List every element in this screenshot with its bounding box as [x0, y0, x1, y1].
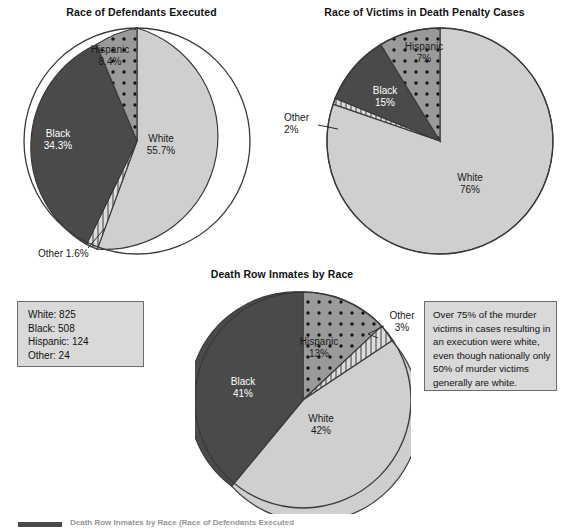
infographic-page: Race of Defendants Executed: [0, 0, 566, 532]
note-line-1: Over 75% of the murder: [433, 308, 548, 322]
counts-databox: White: 825 Black: 508 Hispanic: 124 Othe…: [17, 301, 144, 367]
slice-label-hispanic-deathrow: Hispanic 13%: [288, 336, 350, 360]
slice-label-black-victims: Black 15%: [355, 85, 415, 109]
slice-label-white-deathrow: White 42%: [292, 413, 350, 437]
slice-label-hispanic-defendants: Hispanic 8.4%: [79, 44, 141, 68]
slice-label-white-defendants: White 55.7%: [131, 133, 191, 157]
chart-title-deathrow: Death Row Inmates by Race: [152, 268, 412, 280]
footer-legend-strip: Death Row Inmates by Race (Race of Defen…: [0, 518, 566, 532]
chart-title-victims: Race of Victims in Death Penalty Cases: [283, 6, 566, 18]
footer-swatch-icon: [18, 522, 62, 527]
slice-label-white-victims: White 76%: [440, 172, 500, 196]
note-line-4: even though nationally only: [433, 349, 548, 363]
note-line-3: an execution were white,: [433, 335, 548, 349]
slice-label-hispanic-victims: Hispanic 7%: [393, 41, 455, 65]
count-row-white: White: 825: [28, 308, 134, 322]
slice-label-other-defendants: Other 1.6%: [38, 248, 128, 260]
slice-label-black-deathrow: Black 41%: [215, 376, 271, 400]
count-row-hispanic: Hispanic: 124: [28, 335, 134, 349]
count-row-other: Other: 24: [28, 349, 134, 363]
slice-label-black-defendants: Black 34.3%: [28, 128, 88, 152]
note-line-5: 50% of murder victims: [433, 362, 548, 376]
chart-title-defendants: Race of Defendants Executed: [0, 6, 283, 18]
note-callout-box: Over 75% of the murder victims in cases …: [424, 301, 557, 391]
callout-line-other-deathrow: [366, 320, 392, 340]
callout-line-other-victims: [318, 122, 340, 134]
note-line-6: generally are white.: [433, 376, 548, 390]
footer-caption: Death Row Inmates by Race (Race of Defen…: [70, 518, 294, 527]
count-row-black: Black: 508: [28, 322, 134, 336]
note-line-2: victims in cases resulting in: [433, 322, 548, 336]
